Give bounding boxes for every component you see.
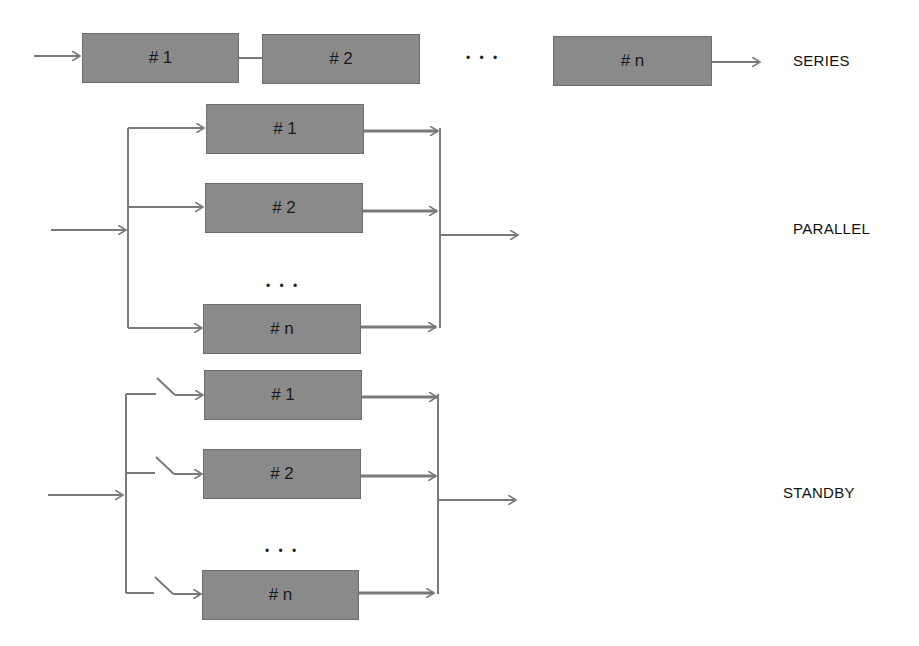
parallel-block-1: # 1 — [206, 104, 364, 154]
switch-1 — [157, 378, 175, 395]
series-block-1: # 1 — [82, 33, 239, 83]
standby-block-2: # 2 — [203, 449, 361, 499]
parallel-ellipsis: • • • — [266, 280, 300, 292]
standby-label: STANDBY — [783, 484, 855, 501]
switch-n — [155, 577, 173, 594]
series-label: SERIES — [793, 52, 850, 69]
series-block-n: # n — [553, 36, 712, 86]
diagram-lines — [0, 0, 919, 646]
series-ellipsis: • • • — [466, 52, 500, 64]
parallel-block-2: # 2 — [205, 183, 363, 233]
parallel-label: PARALLEL — [793, 220, 870, 237]
switch-2 — [156, 457, 174, 474]
standby-ellipsis: • • • — [265, 545, 299, 557]
parallel-block-n: # n — [203, 304, 361, 354]
series-block-2: # 2 — [262, 34, 420, 84]
standby-block-1: # 1 — [204, 370, 362, 420]
standby-block-n: # n — [202, 570, 359, 620]
